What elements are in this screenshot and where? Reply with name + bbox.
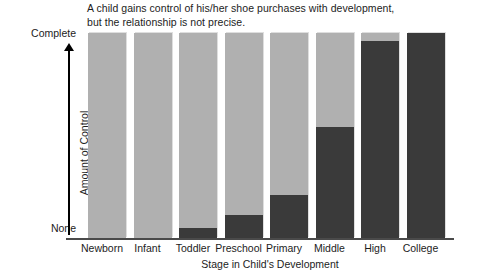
bar-segment-filled-preschool — [225, 215, 263, 238]
y-axis-arrow: Amount of Control — [62, 43, 75, 235]
x-axis-line — [66, 238, 454, 240]
bar-segment-filled-high — [361, 41, 399, 238]
x-axis-label-high: High — [351, 242, 399, 254]
bar-infant — [134, 33, 172, 238]
x-axis-label-primary: Primary — [260, 242, 308, 254]
x-axis-title: Stage in Child's Development — [88, 258, 452, 270]
plot-area — [88, 33, 452, 238]
chart-title-line-1: A child gains control of his/her shoe pu… — [87, 2, 417, 16]
bar-newborn — [88, 33, 126, 238]
bar-segment-filled-middle — [316, 127, 354, 238]
x-axis-label-preschool: Preschool — [215, 242, 263, 254]
bar-segment-filled-primary — [270, 195, 308, 238]
chart-title: A child gains control of his/her shoe pu… — [87, 2, 417, 29]
x-axis-label-toddler: Toddler — [169, 242, 217, 254]
x-axis-label-middle: Middle — [306, 242, 354, 254]
bar-segment-filled-college — [407, 33, 445, 238]
x-axis-tick-labels: NewbornInfantToddlerPreschoolPrimaryMidd… — [88, 242, 452, 256]
bar-primary — [270, 33, 308, 238]
bar-segment-filled-toddler — [179, 228, 217, 238]
bar-college — [407, 33, 445, 238]
arrow-up-icon — [64, 43, 74, 51]
x-axis-label-infant: Infant — [124, 242, 172, 254]
chart-title-line-2: but the relationship is not precise. — [87, 16, 417, 30]
y-axis-shaft — [68, 51, 70, 235]
chart-container: A child gains control of his/her shoe pu… — [0, 0, 485, 278]
bar-toddler — [179, 33, 217, 238]
x-axis-label-newborn: Newborn — [78, 242, 126, 254]
y-axis-tick-complete: Complete — [4, 27, 76, 39]
bar-preschool — [225, 33, 263, 238]
bar-high — [361, 33, 399, 238]
x-axis-label-college: College — [397, 242, 445, 254]
bar-middle — [316, 33, 354, 238]
